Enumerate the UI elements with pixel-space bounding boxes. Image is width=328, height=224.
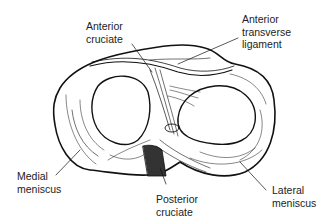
medial-meniscus-inner <box>92 76 150 144</box>
leader-anterior-transverse <box>178 38 238 64</box>
label-line: cruciate <box>156 206 198 219</box>
label-medial-meniscus: Medial meniscus <box>17 170 61 195</box>
lateral-meniscus-inner <box>178 86 255 145</box>
label-line: meniscus <box>272 197 316 210</box>
label-line: Anterior <box>86 20 123 33</box>
label-line: transverse <box>242 26 291 39</box>
label-posterior-cruciate: Posterior cruciate <box>156 193 198 218</box>
label-line: Posterior <box>156 193 198 206</box>
label-anterior-transverse-ligament: Anterior transverse ligament <box>242 13 291 51</box>
posterior-cruciate-shape <box>143 145 166 176</box>
label-line: ligament <box>242 38 291 51</box>
label-line: cruciate <box>86 33 123 46</box>
label-lateral-meniscus: Lateral meniscus <box>272 184 316 209</box>
label-line: Lateral <box>272 184 316 197</box>
label-anterior-cruciate: Anterior cruciate <box>86 20 123 45</box>
label-line: Medial <box>17 170 61 183</box>
label-line: Anterior <box>242 13 291 26</box>
label-line: meniscus <box>17 183 61 196</box>
